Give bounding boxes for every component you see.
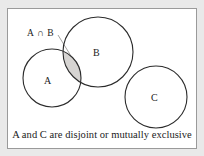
set-label-b: B [93, 47, 100, 58]
set-label-c: C [151, 92, 158, 103]
set-label-a: A [44, 75, 51, 86]
intersection-label: A ∩ B [27, 28, 54, 38]
venn-diagram-figure: A ∩ B A B C A and C are disjoint or mutu… [0, 0, 204, 156]
circle-set-a [23, 49, 81, 107]
diagram-frame: A ∩ B A B C A and C are disjoint or mutu… [7, 8, 197, 149]
figure-caption: A and C are disjoint or mutually exclusi… [8, 129, 196, 140]
